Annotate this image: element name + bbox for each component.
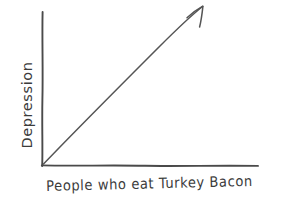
y-axis-label: Depression [19,61,35,148]
hand-drawn-chart: People who eat Turkey Bacon Depression [0,0,281,212]
trend-arrowhead-left-barb [187,6,203,18]
trend-arrowhead-right-barb [200,6,203,27]
trend-line [44,7,203,165]
x-axis-line [42,165,258,166]
